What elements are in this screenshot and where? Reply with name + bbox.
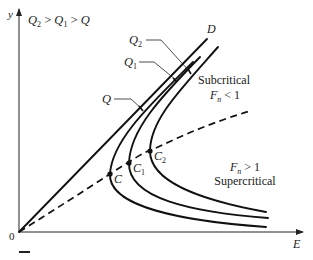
depth-line-d [19, 39, 207, 232]
specific-energy-diagram: y E 0 Q2 > Q1 > Q D C C1 C2 Q Q1 Q2 Subc… [0, 0, 313, 260]
curve-q2-leader [146, 40, 190, 72]
curve-q2-label: Q2 [129, 33, 142, 49]
subcritical-region-label: Subcritical Fn < 1 [198, 73, 251, 104]
origin-label: 0 [9, 230, 15, 242]
y-axis-label: y [7, 8, 13, 20]
critical-point-c-label: C [114, 172, 123, 186]
curve-q-leader [114, 99, 142, 109]
x-axis-label: E [292, 237, 301, 251]
curve-q2-tick [188, 69, 191, 74]
footer-rule [19, 251, 30, 253]
supercritical-region-label: Fn > 1 Supercritical [214, 160, 276, 188]
curve-q-label: Q [102, 92, 111, 106]
critical-point-c2 [147, 148, 152, 153]
critical-point-c1-label: C1 [133, 161, 145, 177]
critical-point-c2-label: C2 [154, 149, 166, 165]
critical-point-c [107, 171, 112, 176]
critical-point-c1 [126, 160, 131, 165]
flow-ordering-label: Q2 > Q1 > Q [28, 13, 90, 29]
svg-text:Fn < 1: Fn < 1 [209, 88, 240, 104]
depth-line-label: D [206, 22, 216, 36]
curve-q1-label: Q1 [124, 55, 137, 71]
svg-text:Subcritical: Subcritical [198, 73, 251, 87]
svg-text:Supercritical: Supercritical [214, 174, 276, 188]
